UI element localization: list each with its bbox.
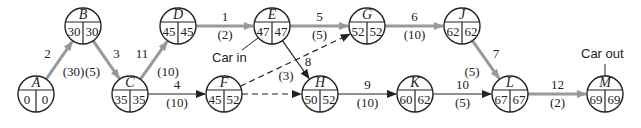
activity-duration: (10) (166, 95, 188, 110)
edge-C-F: 4(10) (148, 77, 205, 110)
edge-L-M: 12(2) (528, 77, 586, 110)
node-early-start: 50 (305, 92, 318, 107)
node-early-start: 35 (115, 92, 128, 107)
edge-E-G: 5(5) (290, 9, 348, 42)
activity-duration: (5) (312, 27, 327, 42)
node-C: C3535 (112, 75, 148, 112)
node-letter: F (219, 75, 229, 90)
edge-A-B: 2(30) (44, 42, 84, 80)
node-letter: H (314, 75, 326, 90)
node-letter: K (409, 75, 420, 90)
activity-number: 9 (364, 77, 371, 92)
node-late-start: 30 (86, 24, 99, 39)
node-M: M6969 (587, 75, 623, 112)
node-late-start: 45 (181, 24, 194, 39)
node-late-start: 52 (370, 24, 383, 39)
node-late-start: 62 (418, 92, 431, 107)
node-late-start: 67 (513, 92, 527, 107)
node-late-start: 47 (275, 24, 289, 39)
edge-H-K: 9(10) (338, 77, 396, 110)
edge-B-C: 3(5) (85, 41, 120, 79)
node-letter: C (125, 75, 135, 90)
node-late-start: 52 (227, 92, 240, 107)
activity-duration: (10) (404, 27, 426, 42)
edge-J-L: 7(5) (464, 41, 499, 79)
node-G: G5252 (349, 7, 385, 44)
node-early-start: 47 (257, 24, 271, 39)
node-late-start: 0 (42, 92, 49, 107)
activity-number: 6 (411, 9, 418, 24)
node-E: E4747 (254, 7, 290, 44)
activity-number: 7 (493, 46, 500, 61)
edge-E-H: 8(3) (278, 41, 311, 83)
edge-K-L: 10(5) (433, 77, 491, 110)
node-F: F4552 (206, 75, 242, 112)
node-J: J6262 (444, 7, 480, 44)
node-letter: G (362, 7, 372, 22)
node-letter: J (459, 7, 466, 22)
activity-number: 1 (222, 9, 229, 24)
activity-number: 5 (316, 9, 323, 24)
node-B: B3030 (65, 7, 101, 44)
node-L: L6767 (492, 75, 528, 112)
activity-number: 12 (551, 77, 564, 92)
node-A: A00 (18, 75, 54, 112)
node-K: K6062 (397, 75, 433, 112)
node-H: H5052 (302, 75, 338, 112)
edge-D-E: 1(2) (196, 9, 253, 42)
activity-duration: (5) (85, 64, 100, 79)
node-letter: L (505, 75, 514, 90)
node-early-start: 30 (68, 24, 81, 39)
activity-duration: (30) (63, 64, 85, 79)
car-in-label: Car in (212, 50, 247, 65)
activity-number: 3 (113, 46, 120, 61)
network-diagram: 2(30)3(5)11(10)4(10)1(2)5(5)8(3)6(10)9(1… (0, 0, 641, 128)
node-late-start: 69 (608, 92, 621, 107)
edge-F-G (240, 34, 350, 86)
activity-number: 2 (44, 46, 51, 61)
node-early-start: 52 (352, 24, 365, 39)
node-late-start: 62 (465, 24, 478, 39)
node-late-start: 52 (323, 92, 336, 107)
activity-duration: (2) (550, 95, 565, 110)
activity-number: 8 (305, 54, 312, 69)
activity-duration: (2) (217, 27, 232, 42)
node-early-start: 45 (163, 24, 176, 39)
node-letter: D (172, 7, 183, 22)
node-late-start: 35 (133, 92, 146, 107)
node-D: D4545 (160, 7, 196, 44)
node-letter: E (267, 7, 277, 22)
dummy-arrow (240, 34, 350, 86)
node-early-start: 0 (24, 92, 31, 107)
node-letter: M (598, 75, 612, 90)
node-early-start: 62 (447, 24, 460, 39)
node-early-start: 67 (495, 92, 509, 107)
activity-duration: (3) (278, 68, 293, 83)
activity-number: 11 (136, 46, 149, 61)
edge-G-J: 6(10) (385, 9, 443, 42)
car-out-label: Car out (581, 46, 624, 61)
car-in-leader (242, 38, 258, 50)
edge-C-D: 11(10) (136, 42, 179, 80)
activity-duration: (5) (455, 95, 470, 110)
node-early-start: 45 (209, 92, 222, 107)
activity-duration: (10) (357, 95, 379, 110)
node-letter: A (31, 75, 41, 90)
node-early-start: 69 (590, 92, 603, 107)
activity-number: 4 (174, 77, 181, 92)
node-letter: B (79, 7, 88, 22)
activity-number: 10 (456, 77, 469, 92)
node-early-start: 60 (400, 92, 413, 107)
